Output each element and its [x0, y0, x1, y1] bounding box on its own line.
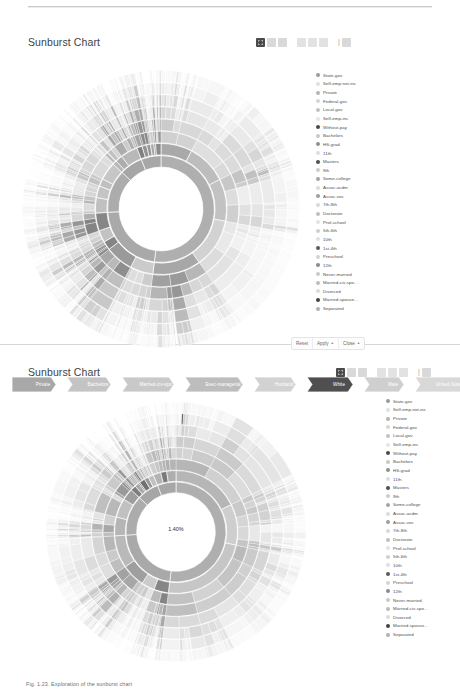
legend-item[interactable]: Private	[316, 89, 358, 96]
legend-item[interactable]: Assoc-voc	[386, 519, 428, 526]
breadcrumb-item[interactable]: Exec-managerial	[185, 377, 258, 392]
legend-item[interactable]: Self-emp-inc	[386, 441, 428, 448]
legend-item[interactable]: Married-spouse...	[386, 623, 428, 630]
legend-item[interactable]: Masters	[386, 484, 428, 491]
legend-item[interactable]: Masters	[316, 158, 358, 165]
sunburst-chart-top[interactable]	[18, 66, 304, 352]
legend-item[interactable]: 9th	[316, 167, 358, 174]
legend-item[interactable]: Doctorate	[386, 536, 428, 543]
breadcrumb-item[interactable]: Husband	[254, 377, 311, 392]
breadcrumb-item[interactable]: White	[307, 377, 368, 392]
legend-swatch-icon	[316, 125, 320, 129]
legend-item[interactable]: Some-college	[386, 502, 428, 509]
legend-item[interactable]: State-gov	[316, 72, 358, 79]
legend-swatch-icon	[316, 263, 320, 267]
legend-item[interactable]: Federal-gov	[316, 98, 358, 105]
chart-toolbar[interactable]: |	[256, 38, 351, 47]
legend-item[interactable]: 9th	[386, 493, 428, 500]
legend-item[interactable]: Private	[386, 415, 428, 422]
expand-icon[interactable]	[336, 368, 345, 377]
breadcrumb-item[interactable]: Bachelors	[67, 377, 126, 392]
legend-item[interactable]: 11th	[316, 150, 358, 157]
legend-item[interactable]: Assoc-acdm	[386, 510, 428, 517]
sunburst-chart-bottom[interactable]: 1.40%	[42, 398, 310, 666]
menu-icon[interactable]	[422, 368, 431, 377]
legend-item[interactable]: Separated	[316, 305, 358, 312]
toolbar-group-view	[256, 38, 287, 47]
legend-item[interactable]: Prof-school	[386, 545, 428, 552]
legend-item-label: Married-spouse...	[323, 297, 358, 302]
legend-item[interactable]: Married-civ-spo...	[316, 279, 358, 286]
breadcrumb-item[interactable]: United-States	[415, 377, 460, 392]
legend-swatch-icon	[386, 546, 390, 550]
legend-item[interactable]: 1st-4th	[386, 571, 428, 578]
legend-item[interactable]: HS-grad	[386, 467, 428, 474]
grid-icon[interactable]	[347, 368, 356, 377]
breadcrumb-item[interactable]: Private	[12, 377, 71, 392]
sunburst-svg[interactable]	[42, 398, 310, 666]
legend-item[interactable]: Divorced	[386, 614, 428, 621]
legend-item-label: Divorced	[323, 289, 341, 294]
legend-item[interactable]: Assoc-acdm	[316, 184, 358, 191]
legend-item[interactable]: 12th	[316, 262, 358, 269]
legend-item[interactable]: Without-pay	[316, 124, 358, 131]
sort-icon[interactable]	[388, 368, 397, 377]
legend-item[interactable]: State-gov	[386, 398, 428, 405]
legend-item-label: Bachelors	[323, 133, 343, 138]
legend-item[interactable]: 7th-8th	[316, 202, 358, 209]
table-icon[interactable]	[278, 38, 287, 47]
breadcrumb[interactable]: Private Bachelors Married-civ-spo.. Exec…	[12, 377, 460, 392]
legend-item[interactable]: Assoc-voc	[316, 193, 358, 200]
legend-item[interactable]: Without-pay	[386, 450, 428, 457]
legend-item[interactable]: Separated	[386, 631, 428, 638]
legend-item[interactable]: Self-emp-not-inc	[316, 81, 358, 88]
legend-item[interactable]: Bachelors	[316, 132, 358, 139]
legend-item[interactable]: Divorced	[316, 288, 358, 295]
legend-item[interactable]: Local-gov	[316, 107, 358, 114]
legend-item-label: Some-college	[323, 176, 350, 181]
legend-item[interactable]: 10th	[316, 236, 358, 243]
legend-item[interactable]: Self-emp-not-inc	[386, 407, 428, 414]
legend-item[interactable]: Preschool	[386, 579, 428, 586]
legend-item-label: Federal-gov	[323, 99, 347, 104]
legend-item[interactable]: Bachelors	[386, 458, 428, 465]
legend-item[interactable]: 5th-6th	[316, 228, 358, 235]
chart-legend-bottom: State-govSelf-emp-not-incPrivateFederal-…	[386, 398, 428, 638]
legend-item[interactable]: Some-college	[316, 176, 358, 183]
legend-item[interactable]: 11th	[386, 476, 428, 483]
menu-icon[interactable]	[342, 38, 351, 47]
legend-swatch-icon	[316, 298, 320, 302]
legend-item[interactable]: Doctorate	[316, 210, 358, 217]
legend-item[interactable]: Self-emp-inc	[316, 115, 358, 122]
legend-item[interactable]: 5th-6th	[386, 554, 428, 561]
legend-item-label: 10th	[393, 563, 402, 568]
breadcrumb-item[interactable]: Married-civ-spo..	[122, 377, 189, 392]
legend-item[interactable]: Married-spouse...	[316, 297, 358, 304]
legend-item[interactable]: Prof-school	[316, 219, 358, 226]
legend-item[interactable]: HS-grad	[316, 141, 358, 148]
chart-toolbar[interactable]: |	[336, 368, 431, 377]
legend-item[interactable]: Never-married	[316, 271, 358, 278]
legend-item[interactable]: 10th	[386, 562, 428, 569]
legend-item-label: 5th-6th	[323, 228, 337, 233]
legend-item[interactable]: Local-gov	[386, 433, 428, 440]
breadcrumb-item[interactable]: Male	[364, 377, 419, 392]
legend-item[interactable]: Federal-gov	[386, 424, 428, 431]
sort-icon[interactable]	[308, 38, 317, 47]
sunburst-svg[interactable]	[18, 66, 304, 352]
legend-item[interactable]: Preschool	[316, 253, 358, 260]
legend-item[interactable]: Never-married	[386, 597, 428, 604]
legend-item[interactable]: 12th	[386, 588, 428, 595]
expand-icon[interactable]	[256, 38, 265, 47]
legend-swatch-icon	[386, 581, 390, 585]
legend-item[interactable]: Married-civ-spo...	[386, 605, 428, 612]
legend-item[interactable]: 1st-4th	[316, 245, 358, 252]
filter-icon[interactable]	[377, 368, 386, 377]
table-icon[interactable]	[358, 368, 367, 377]
columns-icon[interactable]	[399, 368, 408, 377]
grid-icon[interactable]	[267, 38, 276, 47]
legend-item-label: 9th	[323, 168, 329, 173]
filter-icon[interactable]	[297, 38, 306, 47]
legend-item[interactable]: 7th-8th	[386, 528, 428, 535]
columns-icon[interactable]	[319, 38, 328, 47]
